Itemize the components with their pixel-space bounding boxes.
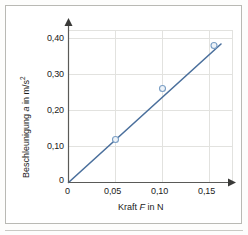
data-point-2: [160, 86, 166, 92]
x-axis-title: Kraft F in N: [118, 202, 164, 212]
y-axis-title-pre: Beschleunigung: [21, 111, 31, 178]
x-tick-label-010: 0,10: [151, 186, 168, 196]
y-axis-title-symbol: a: [21, 106, 31, 111]
x-axis-title-pre: Kraft: [118, 202, 140, 212]
y-tick-label-030: 0,30: [36, 69, 64, 79]
y-tick-label-040: 0,40: [36, 33, 64, 43]
y-axis-title: Beschleunigung a in m/s2: [21, 76, 31, 178]
x-axis-title-post: in N: [145, 202, 164, 212]
y-axis-title-post: in m/s: [21, 80, 31, 107]
x-tick-label-000: 0: [65, 186, 70, 196]
y-axis-title-exponent: 2: [19, 76, 26, 80]
data-point-1: [113, 137, 119, 143]
x-tick-label-005: 0,05: [104, 186, 121, 196]
data-point-3: [211, 43, 217, 49]
figure-container: 0,40 0,30 0,20 0,10 0 0 0,05 0,10 0,15 K…: [0, 0, 248, 235]
y-tick-label-000: 0: [36, 175, 64, 185]
x-tick-label-015: 0,15: [198, 186, 215, 196]
y-axis-arrowhead: [65, 18, 73, 26]
y-tick-label-020: 0,20: [36, 105, 64, 115]
y-tick-label-010: 0,10: [36, 141, 64, 151]
axes: [65, 18, 237, 187]
trend-line: [69, 44, 222, 183]
